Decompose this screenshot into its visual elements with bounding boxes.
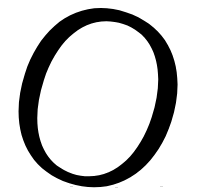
scan-artifact — [115, 187, 118, 188]
scan-artifact — [70, 186, 73, 187]
scan-artifact — [160, 186, 163, 187]
italic-o-glyph — [0, 0, 199, 192]
glyph-canvas: O — [0, 0, 199, 192]
